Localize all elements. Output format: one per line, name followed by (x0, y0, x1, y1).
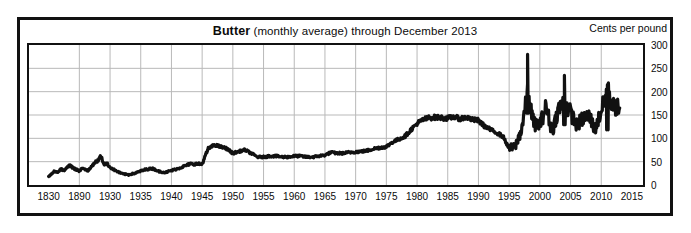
chart-title-strong: Butter (213, 24, 250, 38)
chart-header: Butter (monthly average) through Decembe… (20, 20, 670, 42)
plot-area (27, 43, 645, 187)
y-tick-label: 50 (651, 156, 662, 167)
x-tick-label: 2015 (621, 191, 643, 202)
x-tick-label: 1990 (467, 191, 489, 202)
x-tick-label: 1980 (406, 191, 428, 202)
butter-price-chart: Butter (monthly average) through Decembe… (0, 0, 691, 233)
y-tick-label: 100 (651, 133, 668, 144)
y-tick-label: 150 (651, 110, 668, 121)
x-tick-label: 1995 (498, 191, 520, 202)
x-tick-label: 1950 (222, 191, 244, 202)
unit-caption: Cents per pound (589, 22, 667, 34)
x-tick-label: 2010 (590, 191, 612, 202)
x-tick-label: 1945 (191, 191, 213, 202)
x-tick-label: 1890 (68, 191, 90, 202)
x-tick-label: 1965 (314, 191, 336, 202)
x-tick-label: 1985 (437, 191, 459, 202)
x-tick-label: 1955 (252, 191, 274, 202)
x-tick-label: 2005 (559, 191, 581, 202)
x-tick-label: 1975 (375, 191, 397, 202)
plot-svg (29, 45, 643, 185)
y-tick-label: 200 (651, 86, 668, 97)
x-tick-label: 1940 (160, 191, 182, 202)
chart-title: Butter (monthly average) through Decembe… (213, 24, 478, 38)
y-tick-label: 0 (651, 180, 657, 191)
chart-title-rest: (monthly average) through December 2013 (250, 25, 477, 37)
x-tick-label: 1830 (38, 191, 60, 202)
x-tick-label: 2000 (529, 191, 551, 202)
x-tick-label: 1970 (345, 191, 367, 202)
y-tick-label: 250 (651, 63, 668, 74)
y-tick-label: 300 (651, 40, 668, 51)
x-tick-label: 1960 (283, 191, 305, 202)
gridlines (29, 45, 643, 185)
x-tick-label: 1930 (99, 191, 121, 202)
x-tick-label: 1935 (130, 191, 152, 202)
